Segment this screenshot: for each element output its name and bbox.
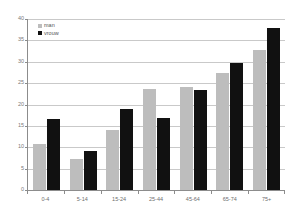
- bar-group: [138, 19, 175, 190]
- x-axis-ticks: [27, 191, 285, 195]
- x-axis-label-0-4: 0-4: [27, 197, 64, 203]
- bar-vrouw-45-64: [194, 90, 207, 190]
- bar-group: [101, 19, 138, 190]
- x-tick-mark: [174, 191, 175, 194]
- bar-vrouw-0-4: [47, 119, 60, 190]
- y-tick-label: 20: [18, 102, 24, 108]
- legend-swatch-vrouw-icon: [38, 31, 42, 35]
- bar-vrouw-5-14: [84, 151, 97, 190]
- legend-item-man: man: [38, 23, 59, 29]
- bar-vrouw-75+: [267, 28, 280, 190]
- bar-vrouw-65-74: [230, 63, 243, 190]
- x-tick-cell: [248, 191, 285, 195]
- bar-man-45-64: [180, 87, 193, 190]
- y-tick-label: 5: [21, 166, 24, 172]
- legend-item-vrouw: vrouw: [38, 31, 59, 37]
- x-axis-label-25-44: 25-44: [138, 197, 175, 203]
- x-axis-label-65-74: 65-74: [211, 197, 248, 203]
- x-tick-cell: [101, 191, 138, 195]
- x-axis-label-5-14: 5-14: [64, 197, 101, 203]
- legend-label-man: man: [44, 23, 55, 29]
- y-tick-label: 10: [18, 145, 24, 151]
- bar-chart: 0510152025303540 0-45-1415-2425-4445-646…: [0, 0, 299, 220]
- x-axis-label-15-24: 15-24: [101, 197, 138, 203]
- x-tick-cell: [211, 191, 248, 195]
- bar-group: [175, 19, 212, 190]
- x-tick-mark: [27, 191, 28, 194]
- x-tick-cell: [138, 191, 175, 195]
- bar-vrouw-15-24: [120, 109, 133, 190]
- x-tick-cell: [174, 191, 211, 195]
- x-tick-mark: [211, 191, 212, 194]
- bar-group: [212, 19, 249, 190]
- legend: man vrouw: [38, 23, 59, 38]
- y-tick-label: 30: [18, 59, 24, 65]
- y-tick-label: 35: [18, 38, 24, 44]
- bar-man-15-24: [106, 130, 119, 190]
- x-tick-mark: [284, 191, 285, 194]
- bar-group: [65, 19, 102, 190]
- y-tick-label: 0: [21, 187, 24, 193]
- y-tick-label: 40: [18, 16, 24, 22]
- x-tick-mark: [101, 191, 102, 194]
- bar-groups: [28, 19, 285, 190]
- bar-man-25-44: [143, 89, 156, 190]
- y-tick-label: 25: [18, 80, 24, 86]
- bar-vrouw-25-44: [157, 118, 170, 190]
- bar-man-75+: [253, 50, 266, 190]
- bar-man-0-4: [33, 144, 46, 190]
- x-tick-cell: [64, 191, 101, 195]
- x-tick-mark: [138, 191, 139, 194]
- x-tick-mark: [248, 191, 249, 194]
- legend-swatch-man-icon: [38, 24, 42, 28]
- x-axis-labels: 0-45-1415-2425-4445-6465-7475+: [27, 197, 285, 203]
- x-axis-label-75+: 75+: [248, 197, 285, 203]
- x-tick-cell: [27, 191, 64, 195]
- bar-man-5-14: [70, 159, 83, 190]
- x-axis-label-45-64: 45-64: [174, 197, 211, 203]
- x-tick-mark: [64, 191, 65, 194]
- bar-group: [28, 19, 65, 190]
- y-tick-label: 15: [18, 123, 24, 129]
- plot-area: 0510152025303540: [27, 19, 285, 191]
- bar-man-65-74: [216, 73, 229, 190]
- bar-group: [248, 19, 285, 190]
- legend-label-vrouw: vrouw: [44, 31, 59, 37]
